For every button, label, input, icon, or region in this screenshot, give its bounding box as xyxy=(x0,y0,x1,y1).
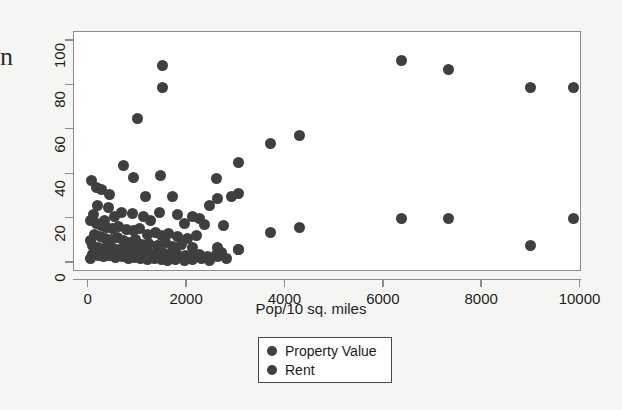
y-axis-tick-label: 100 xyxy=(51,39,68,71)
data-point xyxy=(212,193,223,204)
data-point xyxy=(211,249,222,260)
y-axis-tick-label: 20 xyxy=(51,217,68,249)
data-point xyxy=(265,138,276,149)
data-point xyxy=(525,240,536,251)
x-axis-tick-mark xyxy=(87,279,88,287)
data-point xyxy=(568,213,579,224)
data-point xyxy=(128,172,139,183)
y-axis-tick-label: 60 xyxy=(51,128,68,160)
margin-text-fragment: n xyxy=(0,44,13,70)
data-point xyxy=(140,191,151,202)
data-point xyxy=(294,130,305,141)
x-axis-line xyxy=(73,279,581,280)
data-point xyxy=(396,55,407,66)
figure-page: n 020406080100 0200040006000800010000 Po… xyxy=(0,0,622,410)
data-point xyxy=(85,253,96,264)
data-point xyxy=(233,188,244,199)
data-point xyxy=(179,218,190,229)
legend-item-rent[interactable]: Rent xyxy=(267,361,391,379)
data-point xyxy=(396,213,407,224)
y-axis-tick-label: 0 xyxy=(51,262,68,294)
legend-label: Rent xyxy=(285,362,315,378)
x-axis-tick-mark xyxy=(480,279,481,287)
data-point xyxy=(233,157,244,168)
x-axis-tick-mark xyxy=(284,279,285,287)
data-point xyxy=(568,82,579,93)
data-point xyxy=(218,220,229,231)
data-point xyxy=(191,230,202,241)
data-point xyxy=(443,213,454,224)
data-point xyxy=(211,173,222,184)
data-point xyxy=(118,160,129,171)
data-point xyxy=(145,215,156,226)
data-point xyxy=(167,191,178,202)
x-axis-tick-mark xyxy=(185,279,186,287)
data-point xyxy=(443,64,454,75)
data-point xyxy=(265,227,276,238)
data-point xyxy=(525,82,536,93)
legend-item-property-value[interactable]: Property Value xyxy=(267,342,391,360)
legend-marker-icon xyxy=(267,346,277,356)
plot-data-area xyxy=(74,32,580,270)
x-axis-label: Pop/10 sq. miles xyxy=(0,300,622,317)
data-point xyxy=(294,222,305,233)
y-axis-tick-label: 40 xyxy=(51,173,68,205)
legend[interactable]: Property Value Rent xyxy=(258,337,392,383)
data-point xyxy=(127,208,138,219)
data-point xyxy=(155,170,166,181)
x-axis-tick-mark xyxy=(579,279,580,287)
data-point xyxy=(157,60,168,71)
legend-label: Property Value xyxy=(285,343,377,359)
legend-marker-icon xyxy=(267,365,277,375)
data-point xyxy=(233,244,244,255)
plot-frame xyxy=(73,31,581,271)
x-axis-tick-mark xyxy=(382,279,383,287)
data-point xyxy=(221,253,232,264)
data-point xyxy=(199,219,210,230)
data-point xyxy=(157,82,168,93)
data-point xyxy=(132,113,143,124)
data-point xyxy=(154,207,165,218)
y-axis-tick-label: 80 xyxy=(51,84,68,116)
data-point xyxy=(104,189,115,200)
